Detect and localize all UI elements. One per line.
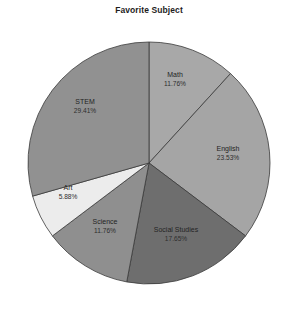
slice-label-social-studies: Social Studies bbox=[154, 226, 199, 233]
slice-label-math: Math bbox=[167, 71, 183, 78]
slice-percent-math: 11.76% bbox=[164, 80, 186, 87]
slice-label-stem: STEM bbox=[75, 98, 95, 105]
slice-percent-english: 23.53% bbox=[217, 154, 240, 161]
slice-percent-social-studies: 17.65% bbox=[165, 235, 188, 242]
pie-chart-canvas: Math11.76%English23.53%Social Studies17.… bbox=[0, 0, 298, 316]
pie-chart-figure: Favorite Subject Math11.76%English23.53%… bbox=[0, 0, 298, 316]
pie-slices-group bbox=[28, 42, 270, 284]
slice-label-art: Art bbox=[64, 184, 73, 191]
slice-label-science: Science bbox=[93, 218, 118, 225]
slice-label-english: English bbox=[217, 145, 240, 153]
slice-percent-science: 11.76% bbox=[94, 227, 116, 234]
slice-percent-stem: 29.41% bbox=[74, 107, 97, 114]
slice-percent-art: 5.88% bbox=[59, 193, 78, 200]
